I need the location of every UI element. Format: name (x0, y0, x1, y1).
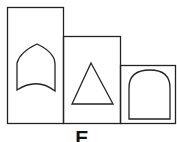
pointed-arch-shape (17, 44, 55, 91)
middle-panel (64, 37, 121, 124)
rounded-arch-shape (129, 70, 170, 119)
triangle-shape (72, 63, 113, 104)
option-label: E (72, 128, 92, 142)
figure-diagram (0, 0, 177, 142)
